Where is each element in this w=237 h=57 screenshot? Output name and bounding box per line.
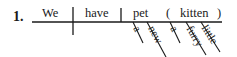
appositive-close-paren: ) bbox=[217, 7, 221, 20]
direct-object-word: pet bbox=[133, 7, 148, 20]
subject-word: We bbox=[42, 7, 58, 20]
appositive-open-paren: ( bbox=[166, 7, 170, 20]
verb-word: have bbox=[85, 7, 109, 20]
appositive-word: kitten bbox=[180, 7, 208, 20]
